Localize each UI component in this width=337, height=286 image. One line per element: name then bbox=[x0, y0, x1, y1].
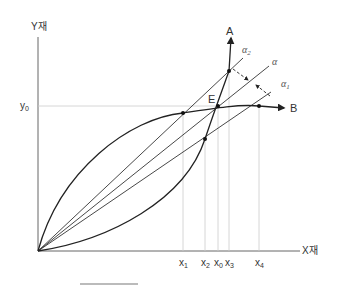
point-E bbox=[216, 104, 220, 108]
x1-tick-label: x1 bbox=[179, 258, 188, 269]
curve-B-label: B bbox=[290, 103, 297, 114]
curve-A-label: A bbox=[226, 26, 233, 37]
x4-sub: 4 bbox=[260, 262, 264, 269]
curve-B bbox=[38, 105, 284, 251]
x0-sub: 0 bbox=[219, 262, 223, 269]
shift-arrow-alpha2 bbox=[233, 69, 248, 80]
shift-arrow-alpha1 bbox=[256, 85, 270, 96]
ray-alpha1 bbox=[38, 92, 271, 251]
alpha1-label: α1 bbox=[281, 79, 290, 91]
x3-tick-label: x3 bbox=[225, 258, 234, 269]
curve-A bbox=[38, 38, 231, 251]
diagram-canvas bbox=[0, 0, 337, 286]
alpha-label: α bbox=[272, 57, 277, 67]
alpha1-sub: 1 bbox=[286, 83, 290, 91]
footer-divider bbox=[80, 283, 138, 285]
x2-tick-label: x2 bbox=[201, 258, 210, 269]
equilibrium-label: E bbox=[208, 94, 215, 105]
y-axis-label: Y재 bbox=[31, 22, 47, 32]
ray-alpha2 bbox=[38, 58, 243, 251]
x3-sub: 3 bbox=[230, 262, 234, 269]
point-x1 bbox=[181, 111, 185, 115]
x2-sub: 2 bbox=[206, 262, 210, 269]
x0-tick-label: x0 bbox=[214, 258, 223, 269]
point-x3 bbox=[227, 69, 231, 73]
point-x4 bbox=[257, 104, 261, 108]
x1-sub: 1 bbox=[184, 262, 188, 269]
alpha2-sub: 2 bbox=[247, 49, 251, 57]
ray-alpha bbox=[38, 66, 269, 251]
x4-tick-label: x4 bbox=[255, 258, 264, 269]
y0-label: y0 bbox=[20, 101, 29, 112]
x-axis-label: X재 bbox=[302, 246, 318, 256]
point-x2 bbox=[203, 137, 207, 141]
y0-sub: 0 bbox=[25, 105, 29, 112]
alpha2-label: α2 bbox=[242, 45, 251, 57]
